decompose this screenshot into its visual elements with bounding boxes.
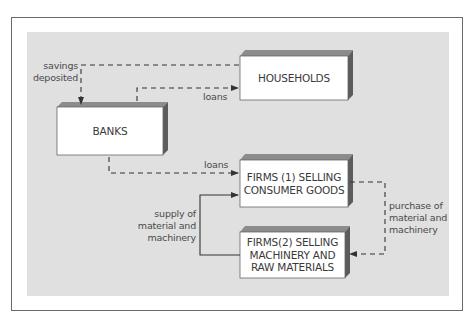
firms2-label: FIRMS(2) SELLING MACHINERY AND RAW MATER… xyxy=(240,232,345,278)
banks-label: BANKS xyxy=(57,107,163,155)
purchase-label-line1: purchase of xyxy=(389,200,459,212)
loans-households-label: loans xyxy=(203,91,227,103)
firms1-label-line1: FIRMS (1) SELLING xyxy=(247,171,341,184)
households-label: HOUSEHOLDS xyxy=(240,56,348,100)
supply-flow-line xyxy=(200,195,240,255)
loans-firms-label-text: loans xyxy=(204,159,228,170)
households-label-text: HOUSEHOLDS xyxy=(258,72,330,85)
diagram-canvas xyxy=(0,0,476,322)
savings-label-line1: savings xyxy=(20,60,78,72)
purchase-flow-line xyxy=(350,182,385,254)
savings-label: savings deposited xyxy=(20,60,78,84)
purchase-label-line2: material and xyxy=(389,212,459,224)
supply-label-line2: material and xyxy=(128,220,196,232)
banks-label-text: BANKS xyxy=(93,125,128,138)
supply-label-line1: supply of xyxy=(128,208,196,220)
savings-label-line2: deposited xyxy=(20,72,78,84)
loans-firms-label: loans xyxy=(204,159,228,171)
supply-label: supply of material and machinery xyxy=(128,208,196,244)
firms2-label-line1: FIRMS(2) SELLING xyxy=(247,236,338,249)
firms1-label-line2: CONSUMER GOODS xyxy=(244,184,345,197)
firms2-label-line2: MACHINERY AND xyxy=(250,249,336,262)
loans-households-label-text: loans xyxy=(203,91,227,102)
purchase-label: purchase of material and machinery xyxy=(389,200,459,236)
supply-label-line3: machinery xyxy=(128,232,196,244)
firms2-label-line3: RAW MATERIALS xyxy=(251,261,334,274)
purchase-label-line3: machinery xyxy=(389,224,459,236)
firms1-label: FIRMS (1) SELLING CONSUMER GOODS xyxy=(240,160,348,207)
